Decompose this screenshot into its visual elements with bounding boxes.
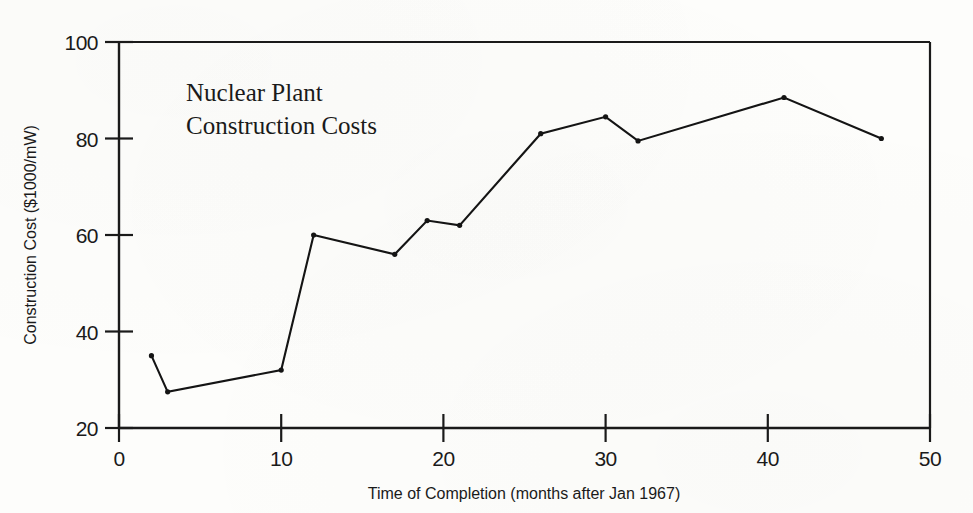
data-point [149, 353, 154, 358]
data-point [781, 95, 786, 100]
x-tick-label-30: 30 [594, 447, 616, 470]
y-axis-title: Construction Cost ($1000/mW) [22, 125, 39, 345]
x-tick-label-20: 20 [432, 447, 454, 470]
series-markers [149, 95, 884, 395]
chart-title-line-1: Nuclear Plant [186, 79, 323, 106]
nuclear-plant-construction-costs-chart: 100 80 60 40 20 0 10 20 30 40 50 Time of… [0, 0, 973, 513]
data-point [279, 368, 284, 373]
y-tick-label-20: 20 [76, 417, 98, 440]
x-axis-tick-labels: 0 10 20 30 40 50 [113, 447, 941, 470]
y-tick-label-40: 40 [76, 321, 98, 344]
data-point [879, 136, 884, 141]
y-tick-label-60: 60 [76, 224, 98, 247]
x-tick-label-0: 0 [113, 447, 124, 470]
data-point [165, 389, 170, 394]
y-tick-label-80: 80 [76, 128, 98, 151]
y-tick-label-100: 100 [64, 31, 98, 54]
data-point [538, 131, 543, 136]
data-point [635, 138, 640, 143]
x-tick-label-50: 50 [919, 447, 941, 470]
x-axis-title: Time of Completion (months after Jan 196… [368, 485, 680, 502]
y-axis-tick-labels: 100 80 60 40 20 [64, 31, 98, 440]
x-tick-label-10: 10 [270, 447, 292, 470]
chart-title: Nuclear Plant Construction Costs [186, 79, 377, 139]
data-series [149, 95, 884, 395]
chart-page: 100 80 60 40 20 0 10 20 30 40 50 Time of… [0, 0, 973, 513]
x-tick-label-40: 40 [757, 447, 779, 470]
data-point [392, 252, 397, 257]
series-line [151, 97, 881, 391]
data-point [457, 223, 462, 228]
data-point [311, 232, 316, 237]
data-point [425, 218, 430, 223]
chart-title-line-2: Construction Costs [186, 112, 377, 139]
data-point [603, 114, 608, 119]
